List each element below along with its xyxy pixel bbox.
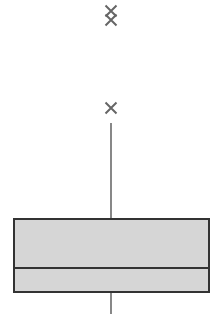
outlier-x-marker-icon — [106, 6, 117, 17]
outlier-x-marker-icon — [106, 103, 117, 114]
box-plot — [0, 0, 215, 326]
iqr-box — [14, 219, 209, 292]
plot-area — [14, 6, 209, 315]
